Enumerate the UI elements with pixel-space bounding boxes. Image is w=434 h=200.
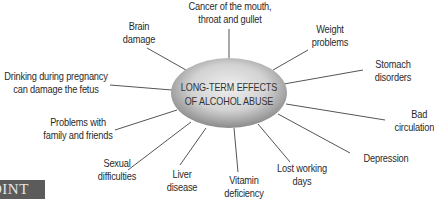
- connector-family: [115, 110, 177, 130]
- label-brain: Brain damage: [117, 20, 161, 46]
- label-pregnancy: Drinking during pregnancy can damage the…: [3, 70, 109, 96]
- connector-lost-working-days: [258, 124, 290, 162]
- label-stomach: Stomach disorders: [364, 58, 422, 84]
- center-title-line-1: LONG-TERM EFFECTS: [179, 80, 279, 94]
- label-vitamin: Vitamin deficiency: [216, 174, 272, 200]
- connector-brain: [147, 48, 186, 70]
- label-liver: Liver disease: [156, 168, 209, 194]
- connector-circulation: [286, 104, 385, 120]
- label-family: Problems with family and friends: [34, 116, 122, 142]
- label-depression: Depression: [353, 152, 420, 165]
- center-title: LONG-TERM EFFECTS OF ALCOHOL ABUSE: [179, 80, 279, 108]
- connector-stomach: [284, 70, 363, 84]
- label-weight: Weight problems: [304, 23, 357, 49]
- label-circulation: Bad circulation: [378, 108, 434, 134]
- connector-pregnancy: [110, 85, 172, 90]
- connector-weight: [273, 50, 308, 70]
- corner-badge: OINT: [0, 180, 45, 199]
- label-sexual: Sexual difficulties: [86, 157, 148, 183]
- corner-badge-text: OINT: [0, 181, 29, 197]
- center-title-line-2: OF ALCOHOL ABUSE: [179, 94, 279, 108]
- label-lost-working-days: Lost working days: [267, 162, 337, 188]
- label-cancer: Cancer of the mouth, throat and gullet: [177, 0, 283, 26]
- connector-vitamin: [234, 128, 238, 172]
- connector-liver: [180, 128, 206, 165]
- connector-depression: [278, 114, 350, 153]
